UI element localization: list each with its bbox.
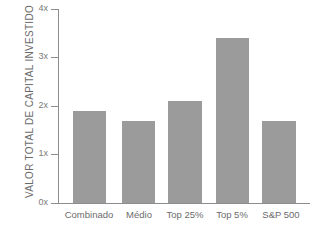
- x-axis-line: [58, 203, 310, 204]
- y-tick-label-1: 1x: [8, 149, 48, 158]
- y-tick-label-0: 0x: [8, 198, 48, 207]
- y-tick-0: [51, 203, 58, 204]
- bar-medio: [122, 121, 155, 203]
- bar-top5: [216, 38, 249, 203]
- y-tick-1: [51, 154, 58, 155]
- bar-combinado: [73, 111, 106, 203]
- bar-chart: VALOR TOTAL DE CAPITAL INVESTIDO 0x 1x 2…: [0, 0, 322, 237]
- x-label-sp500: S&P 500: [252, 209, 310, 220]
- y-tick-4: [51, 9, 58, 10]
- y-tick-3: [51, 57, 58, 58]
- y-tick-2: [51, 106, 58, 107]
- y-tick-label-2: 2x: [8, 101, 48, 110]
- x-label-top5: Top 5%: [207, 209, 257, 220]
- x-label-medio: Médio: [117, 209, 161, 220]
- x-label-combinado: Combinado: [57, 209, 121, 220]
- bar-sp500: [262, 121, 296, 203]
- y-tick-label-3: 3x: [8, 52, 48, 61]
- x-label-top25: Top 25%: [158, 209, 212, 220]
- bars-layer: [59, 9, 310, 203]
- y-tick-label-4: 4x: [8, 4, 48, 13]
- bar-top25: [168, 101, 202, 203]
